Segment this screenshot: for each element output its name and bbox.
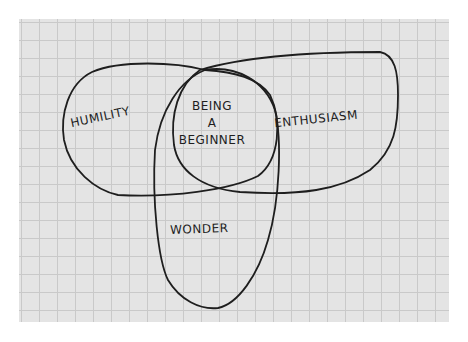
intersection-line-3: BEGINNER [172,132,252,149]
intersection-label: BEING A BEGINNER [172,98,252,149]
intersection-line-2: A [172,115,252,132]
venn-diagram [0,0,468,342]
intersection-line-1: BEING [172,98,252,115]
wonder-label: WONDER [170,221,229,237]
